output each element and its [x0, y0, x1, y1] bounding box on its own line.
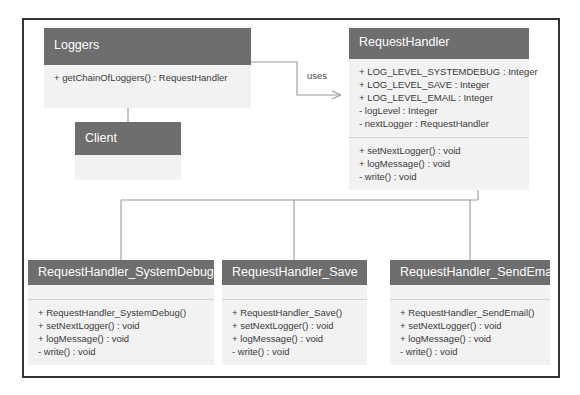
- methods-compartment-loggers: + getChainOfLoggers() : RequestHandler: [44, 65, 251, 91]
- method-item: + RequestHandler_SystemDebug(): [38, 306, 204, 319]
- method-item: + RequestHandler_Save(): [232, 306, 357, 319]
- methods-compartment-requesthandler: + setNextLogger() : void + logMessage() …: [349, 137, 529, 190]
- class-box-requesthandler-save[interactable]: RequestHandler_Save + RequestHandler_Sav…: [222, 260, 367, 365]
- class-body-client: [75, 155, 181, 180]
- attributes-compartment-requesthandler: + LOG_LEVEL_SYSTEMDEBUG : Integer + LOG_…: [349, 59, 529, 137]
- class-name-requesthandler-systemdebug: RequestHandler_SystemDebug: [28, 260, 214, 285]
- method-item: + RequestHandler_SendEmail(): [400, 306, 540, 319]
- method-item: + logMessage() : void: [359, 157, 519, 170]
- methods-compartment-requesthandler-save: + RequestHandler_Save() + setNextLogger(…: [222, 299, 367, 365]
- class-name-loggers: Loggers: [44, 28, 251, 65]
- methods-compartment-requesthandler-sendemail: + RequestHandler_SendEmail() + setNextLo…: [390, 299, 550, 365]
- attribute-item: + LOG_LEVEL_EMAIL : Integer: [359, 91, 519, 104]
- class-name-requesthandler-sendemail: RequestHandler_SendEmail: [390, 260, 550, 285]
- attributes-compartment-requesthandler-save: [222, 285, 367, 299]
- class-body-requesthandler: + LOG_LEVEL_SYSTEMDEBUG : Integer + LOG_…: [349, 59, 529, 190]
- class-box-requesthandler[interactable]: RequestHandler + LOG_LEVEL_SYSTEMDEBUG :…: [349, 28, 529, 190]
- attributes-compartment-requesthandler-systemdebug: [28, 285, 214, 299]
- attribute-item: - logLevel : Integer: [359, 104, 519, 117]
- class-body-requesthandler-systemdebug: + RequestHandler_SystemDebug() + setNext…: [28, 285, 214, 365]
- method-item: - write() : void: [232, 345, 357, 358]
- attribute-item: - nextLogger : RequestHandler: [359, 117, 519, 130]
- class-body-requesthandler-sendemail: + RequestHandler_SendEmail() + setNextLo…: [390, 285, 550, 365]
- class-name-requesthandler-save: RequestHandler_Save: [222, 260, 367, 285]
- attributes-compartment-requesthandler-sendemail: [390, 285, 550, 299]
- methods-compartment-requesthandler-systemdebug: + RequestHandler_SystemDebug() + setNext…: [28, 299, 214, 365]
- class-box-requesthandler-systemdebug[interactable]: RequestHandler_SystemDebug + RequestHand…: [28, 260, 214, 365]
- method-item: + logMessage() : void: [38, 332, 204, 345]
- class-box-loggers[interactable]: Loggers + getChainOfLoggers() : RequestH…: [44, 28, 251, 108]
- diagram-canvas: Loggers + getChainOfLoggers() : RequestH…: [0, 0, 580, 395]
- class-body-requesthandler-save: + RequestHandler_Save() + setNextLogger(…: [222, 285, 367, 365]
- attribute-item: + LOG_LEVEL_SYSTEMDEBUG : Integer: [359, 65, 519, 78]
- class-box-client[interactable]: Client: [75, 122, 181, 180]
- method-item: + logMessage() : void: [232, 332, 357, 345]
- method-item: - write() : void: [38, 345, 204, 358]
- class-body-loggers: + getChainOfLoggers() : RequestHandler: [44, 65, 251, 108]
- class-box-requesthandler-sendemail[interactable]: RequestHandler_SendEmail + RequestHandle…: [390, 260, 550, 365]
- method-item: + logMessage() : void: [400, 332, 540, 345]
- method-item: + getChainOfLoggers() : RequestHandler: [54, 71, 241, 84]
- class-name-requesthandler: RequestHandler: [349, 28, 529, 59]
- class-name-client: Client: [75, 122, 181, 155]
- method-item: + setNextLogger() : void: [359, 144, 519, 157]
- method-item: - write() : void: [400, 345, 540, 358]
- edge-label-uses: uses: [305, 70, 329, 81]
- attribute-item: + LOG_LEVEL_SAVE : Integer: [359, 78, 519, 91]
- method-item: + setNextLogger() : void: [400, 319, 540, 332]
- empty-compartment-client: [75, 155, 181, 169]
- method-item: - write() : void: [359, 170, 519, 183]
- method-item: + setNextLogger() : void: [38, 319, 204, 332]
- method-item: + setNextLogger() : void: [232, 319, 357, 332]
